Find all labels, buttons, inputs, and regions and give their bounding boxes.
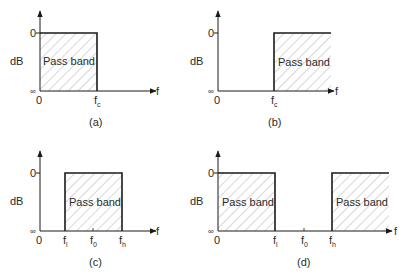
fc-tick-label: fc — [271, 94, 278, 108]
pass-band-label: Pass band — [278, 56, 330, 68]
zero-db-label: 0 — [208, 167, 214, 179]
zero-db-label: 0 — [30, 167, 36, 179]
origin-label: 0 — [36, 234, 42, 246]
fl-tick-label: fl — [273, 234, 278, 248]
f-axis-label: f — [156, 225, 160, 237]
f-axis-label: f — [335, 85, 339, 97]
f-axis-label: f — [156, 85, 160, 97]
y-axis-label: dB — [190, 195, 203, 207]
panel-c-band-pass: 0 dB ∞ 0 Pass band fl f0 fh f (c) — [10, 151, 160, 268]
panel-caption: (a) — [89, 116, 102, 128]
pass-band-label: Pass band — [69, 196, 121, 208]
panel-caption: (c) — [89, 256, 102, 268]
fl-tick-label: fl — [63, 234, 68, 248]
y-axis-label: dB — [190, 55, 203, 67]
zero-db-label: 0 — [30, 27, 36, 39]
origin-label: 0 — [214, 234, 220, 246]
origin-label: 0 — [36, 94, 42, 106]
zero-db-label: 0 — [208, 27, 214, 39]
panel-caption: (d) — [297, 256, 310, 268]
fc-tick-label: fc — [94, 94, 101, 108]
panel-caption: (b) — [268, 116, 281, 128]
f-axis-label: f — [394, 225, 398, 237]
panel-d-band-stop: 0 dB ∞ 0 Pass band Pass band fl f0 fh f … — [190, 151, 398, 268]
y-axis-label: dB — [10, 55, 23, 67]
pass-band-label-high: Pass band — [336, 196, 388, 208]
pass-band-label: Pass band — [43, 55, 95, 67]
origin-label: 0 — [214, 94, 220, 106]
fh-tick-label: fh — [329, 234, 336, 248]
y-axis-label: dB — [10, 195, 23, 207]
filter-response-diagram: 0 dB ∞ 0 Pass band fc f (a) 0 dB ∞ 0 Pas… — [0, 0, 408, 278]
f0-tick-label: f0 — [301, 234, 308, 248]
panel-a-low-pass: 0 dB ∞ 0 Pass band fc f (a) — [10, 11, 160, 128]
fh-tick-label: fh — [119, 234, 126, 248]
pass-band-label-low: Pass band — [222, 196, 274, 208]
panel-b-high-pass: 0 dB ∞ 0 Pass band fc f (b) — [190, 11, 339, 128]
f0-tick-label: f0 — [90, 234, 97, 248]
